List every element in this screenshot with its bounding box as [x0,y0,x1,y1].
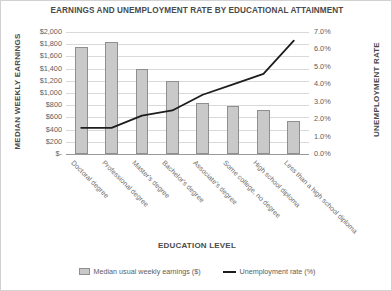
y-axis-left-tick: $200 [46,138,62,145]
legend-label-unemployment: Unemployment rate (%) [240,267,316,276]
x-axis-label: Some college, no degree [222,159,282,219]
y-axis-right-tick: 7.0% [314,28,331,35]
legend-item-unemployment: Unemployment rate (%) [223,267,316,276]
y-axis-right-tick: 4.0% [314,81,331,88]
y-axis-left-tick: $800 [46,102,62,109]
y-axis-left-tick: $1,800 [40,41,62,48]
y-axis-left-tick: $1,400 [40,65,62,72]
legend-label-earnings: Median usual weekly earnings ($) [94,267,201,276]
y-axis-right-tick: 6.0% [314,46,331,53]
y-axis-right-tick: 1.0% [314,133,331,140]
y-axis-left-tick: $1,200 [40,77,62,84]
y-axis-left-tick: $1,600 [40,53,62,60]
y-axis-left-tick: $2,000 [40,28,62,35]
y-axis-right-title: UNEMPLOYMENT RATE [372,25,381,155]
x-axis-title: EDUCATION LEVEL [1,241,392,250]
y-axis-left-tick: $- [56,150,63,157]
y-axis-left-title: MEDIAN WEEKLY EARNINGS [13,22,22,162]
line-swatch-icon [223,271,236,273]
y-axis-left-tick: $1,000 [40,89,62,96]
y-axis-left-tick: $400 [46,126,62,133]
y-axis-left-tick: $600 [46,114,62,121]
line-series [66,32,309,154]
chart-title: EARNINGS AND UNEMPLOYMENT RATE BY EDUCAT… [1,6,392,15]
gridline [66,154,309,155]
y-axis-right-tick: 2.0% [314,115,331,122]
chart-legend: Median usual weekly earnings ($) Unemplo… [1,267,392,276]
legend-item-earnings: Median usual weekly earnings ($) [79,267,201,276]
y-axis-right-tick: 3.0% [314,98,331,105]
chart-container: EARNINGS AND UNEMPLOYMENT RATE BY EDUCAT… [0,0,392,291]
y-axis-right-tick: 5.0% [314,63,331,70]
plot-area: $-$200$400$600$800$1,000$1,200$1,400$1,6… [66,32,309,154]
bar-swatch-icon [79,268,90,275]
y-axis-right-tick: 0.0% [314,150,331,157]
